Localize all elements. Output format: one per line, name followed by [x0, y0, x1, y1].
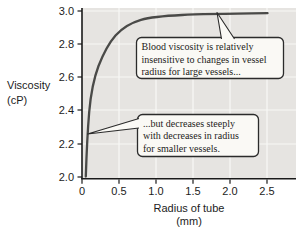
x-tick-labels: 0 0.5 1.0 1.5 2.0 2.5 [79, 185, 275, 197]
y-tick-label: 2.0 [59, 171, 74, 183]
y-axis-title-units: (cP) [7, 94, 27, 106]
y-tick-labels: 3.0 2.8 2.6 2.4 2.2 2.0 [59, 5, 74, 183]
x-tick-label: 1.0 [148, 185, 163, 197]
y-axis-title: Viscosity [7, 79, 51, 91]
y-tick-label: 2.8 [59, 38, 74, 50]
y-tick-label: 3.0 [59, 5, 74, 17]
x-tick-label: 0.5 [111, 185, 126, 197]
x-axis-title-units: (mm) [176, 215, 202, 227]
y-tick-label: 2.4 [59, 104, 74, 116]
callout-large-vessels-line2: insensitive to changes in vessel [142, 54, 267, 65]
y-tick-label: 2.2 [59, 138, 74, 150]
chart-canvas: 3.0 2.8 2.6 2.4 2.2 2.0 0 0.5 1.0 1.5 2.… [0, 0, 298, 228]
callout-small-vessels-line1: ...but decreases steeply [143, 118, 235, 129]
x-tick-label: 1.5 [185, 185, 200, 197]
x-axis-title: Radius of tube [154, 202, 225, 214]
y-tick-label: 2.6 [59, 71, 74, 83]
x-tick-label: 2.5 [259, 185, 274, 197]
viscosity-radius-figure: 3.0 2.8 2.6 2.4 2.2 2.0 0 0.5 1.0 1.5 2.… [0, 0, 298, 228]
x-tick-label: 0 [79, 185, 85, 197]
callout-large-vessels-line3: radius for large vessels... [142, 66, 241, 77]
callout-large-vessels-line1: Blood viscosity is relatively [142, 41, 254, 52]
callout-small-vessels-line3: for smaller vessels. [143, 143, 220, 154]
x-tick-label: 2.0 [222, 185, 237, 197]
callout-small-vessels-line2: with decreases in radius [143, 130, 239, 141]
